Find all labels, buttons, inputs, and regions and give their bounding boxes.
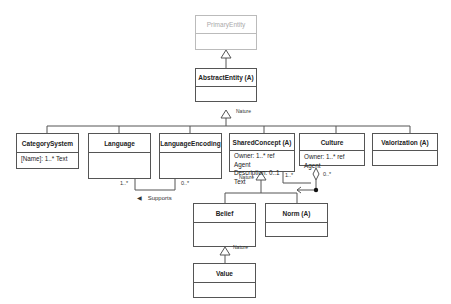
class-attributes: Owner: 1..* ref Agent Description: 0..1 … [230,151,294,188]
class-shared-concept[interactable]: SharedConcept (A) Owner: 1..* ref Agent … [229,133,295,172]
attribute: [Name]: 1..* Text [21,155,74,164]
class-norm[interactable]: Norm (A) [265,203,328,237]
class-name: AbstractEntity (A) [196,69,256,87]
association-name: ◀ Supports [137,194,172,201]
generalization-arrow-icon [220,247,230,255]
class-value[interactable]: Value [193,263,256,298]
class-name: Valorization (A) [373,134,437,151]
multiplicity-label: 0..* [181,180,189,186]
class-name: PrimaryEntity [196,16,256,34]
navigability-dot-icon [314,188,318,192]
class-category-system[interactable]: CategorySystem [Name]: 1..* Text [16,133,79,169]
generalization-arrow-icon [221,50,231,58]
class-language-encoding[interactable]: LanguageEncoding [159,133,222,179]
class-name: Language [89,134,150,153]
generalization-label: Nature [236,108,251,114]
class-name: CategorySystem [17,134,78,153]
class-name: Value [194,264,255,283]
class-abstract-entity[interactable]: AbstractEntity (A) [195,68,257,102]
generalization-label: Nature [233,244,248,250]
class-belief[interactable]: Belief [193,203,256,247]
class-attributes: Owner: 1..* ref Agent [300,151,364,172]
direction-arrow-icon: ◀ [137,195,142,201]
class-attributes: [Name]: 1..* Text [17,153,78,166]
attribute: Owner: 1..* ref Agent [234,152,290,169]
attribute: Owner: 1..* ref Agent [304,153,360,170]
class-valorization[interactable]: Valorization (A) [372,133,438,166]
class-name: LanguageEncoding [160,134,221,153]
class-name: Belief [194,204,255,223]
class-primary-entity[interactable]: PrimaryEntity [195,15,257,50]
class-name: Culture [300,134,364,151]
generalization-label: Nature [239,174,254,180]
multiplicity-label: 1..* [285,172,293,178]
multiplicity-label: 1..* [120,180,128,186]
class-culture[interactable]: Culture Owner: 1..* ref Agent [299,133,365,166]
association-label: Supports [148,195,172,201]
class-name: SharedConcept (A) [230,134,294,151]
class-name: Norm (A) [266,204,327,223]
multiplicity-label: 0..* [323,171,331,177]
class-language[interactable]: Language [88,133,151,179]
generalization-arrow-icon [221,110,231,118]
